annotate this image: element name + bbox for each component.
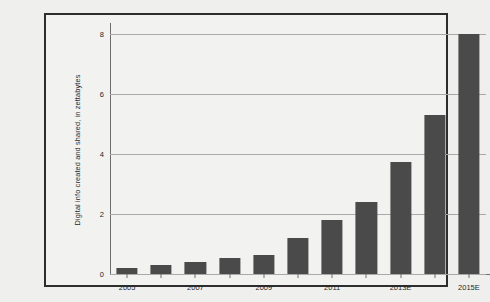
x-tick xyxy=(400,274,401,278)
chart-frame: Digital info created and shared, in zett… xyxy=(44,13,448,287)
bar xyxy=(322,220,343,274)
y-tick-label: 6 xyxy=(100,90,104,99)
bar xyxy=(219,258,240,275)
x-tick-label: 2005 xyxy=(119,283,136,292)
x-tick xyxy=(263,274,264,278)
y-tick-label: 0 xyxy=(100,270,104,279)
x-tick xyxy=(434,274,435,278)
bar xyxy=(287,238,308,274)
bar xyxy=(185,262,206,274)
x-tick xyxy=(229,274,230,278)
x-tick-label: 2007 xyxy=(187,283,204,292)
bar xyxy=(151,265,172,274)
x-tick-label: 2015E xyxy=(458,283,480,292)
y-axis-title: Digital info created and shared, in zett… xyxy=(73,75,82,226)
x-tick-label: 2011 xyxy=(324,283,340,292)
x-tick xyxy=(195,274,196,278)
y-axis-spine xyxy=(110,23,111,275)
bar xyxy=(458,34,479,274)
x-tick xyxy=(366,274,367,278)
gridline: 6 xyxy=(110,94,486,95)
x-tick-label: 2009 xyxy=(255,283,272,292)
gridline: 8 xyxy=(110,34,486,35)
y-tick-label: 8 xyxy=(100,30,104,39)
x-tick xyxy=(332,274,333,278)
plot-area: 02468 20052007200920112013E2015E xyxy=(110,35,486,275)
bar xyxy=(253,255,274,275)
y-tick-label: 2 xyxy=(100,210,104,219)
bar xyxy=(390,162,411,275)
x-tick xyxy=(298,274,299,278)
bar xyxy=(356,202,377,274)
x-tick xyxy=(161,274,162,278)
y-tick-label: 4 xyxy=(100,150,104,159)
x-tick xyxy=(468,274,469,278)
x-tick-label: 2013E xyxy=(390,283,412,292)
bar xyxy=(424,115,445,274)
x-tick xyxy=(127,274,128,278)
